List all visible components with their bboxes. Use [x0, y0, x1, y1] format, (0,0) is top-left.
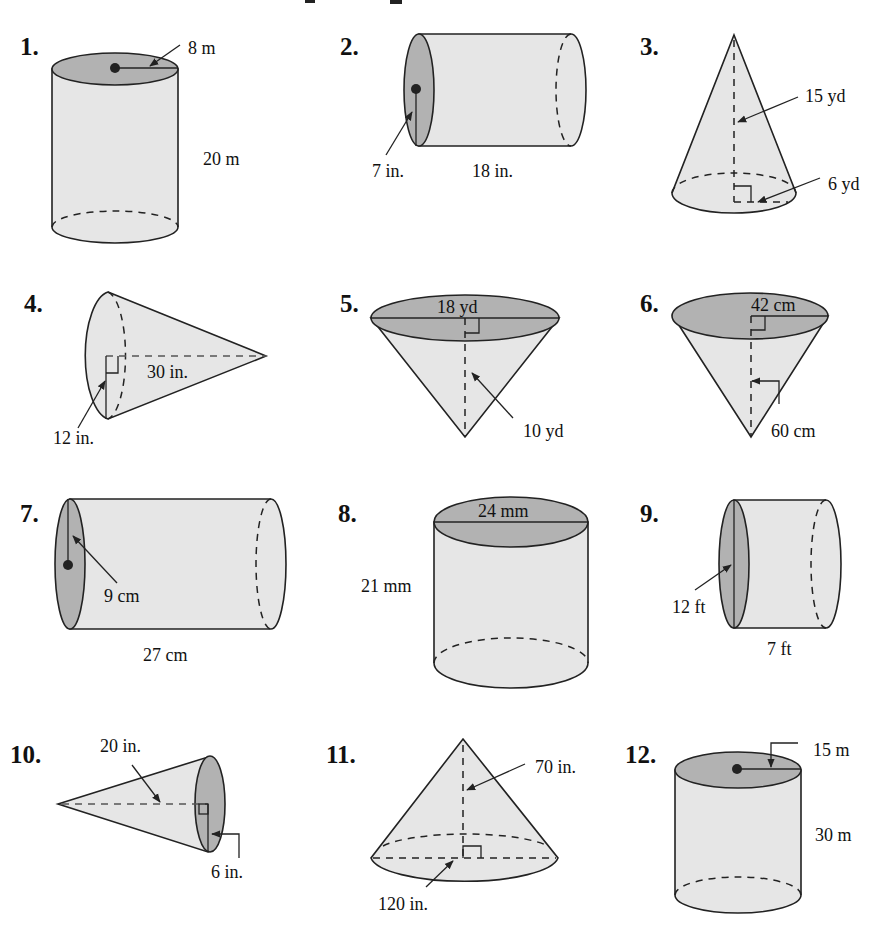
figure-number: 4.: [24, 290, 43, 317]
figure-number: 8.: [338, 500, 357, 527]
label-height: 15 yd: [805, 86, 846, 106]
label-radius: 9 cm: [104, 586, 140, 606]
figure-number: 9.: [640, 500, 659, 527]
label-length: 7 ft: [767, 639, 792, 659]
label-length: 18 in.: [472, 161, 513, 181]
figure-4: 4. 30 in. 12 in.: [24, 290, 266, 448]
figure-number: 1.: [20, 33, 39, 60]
figure-2: 2. 7 in. 18 in.: [340, 33, 586, 181]
label-diameter: 120 in.: [378, 894, 428, 914]
label-height: 20 in.: [100, 736, 141, 756]
label-diameter: 18 yd: [437, 297, 478, 317]
figure-number: 3.: [640, 33, 659, 60]
label-height: 20 m: [203, 149, 240, 169]
label-height: 10 yd: [523, 421, 564, 441]
clipped-heading: [305, 0, 402, 4]
figure-number: 12.: [625, 741, 656, 768]
figure-10: 10. 20 in. 6 in.: [10, 736, 243, 882]
figure-6: 6. 42 cm 60 cm: [640, 290, 828, 441]
label-height: 21 mm: [361, 576, 412, 596]
figure-number: 5.: [340, 290, 359, 317]
label-diameter: 24 mm: [478, 501, 529, 521]
label-length: 27 cm: [143, 645, 188, 665]
figure-number: 10.: [10, 741, 41, 768]
label-height: 30 in.: [147, 362, 188, 382]
figure-5: 5. 18 yd 10 yd: [340, 290, 564, 441]
figure-number: 2.: [340, 33, 359, 60]
label-height: 30 m: [815, 825, 852, 845]
label-diameter: 12 ft: [672, 597, 706, 617]
figure-9: 9. 12 ft 7 ft: [640, 500, 841, 659]
figure-3: 3. 15 yd 6 yd: [640, 33, 860, 213]
label-radius: 15 m: [813, 740, 850, 760]
label-radius: 6 yd: [828, 174, 860, 194]
figure-1: 1. 8 m 20 m: [20, 33, 240, 243]
geometry-figures-canvas: 1. 8 m 20 m 2. 7 in. 18 in. 3. 15 yd 6 y…: [0, 0, 875, 931]
label-radius: 6 in.: [211, 862, 243, 882]
figure-7: 7. 9 cm 27 cm: [20, 499, 286, 665]
figure-number: 11.: [326, 741, 356, 768]
label-height: 70 in.: [535, 757, 576, 777]
figure-12: 12. 15 m 30 m: [625, 740, 852, 913]
label-radius: 8 m: [188, 38, 216, 58]
label-radius: 12 in.: [53, 428, 94, 448]
figure-number: 7.: [20, 500, 39, 527]
figure-11: 11. 70 in. 120 in.: [326, 739, 576, 914]
figure-number: 6.: [640, 290, 659, 317]
label-height: 60 cm: [771, 421, 816, 441]
label-radius: 7 in.: [372, 161, 404, 181]
label-radius: 42 cm: [751, 295, 796, 315]
figure-8: 8. 24 mm 21 mm: [338, 497, 588, 688]
